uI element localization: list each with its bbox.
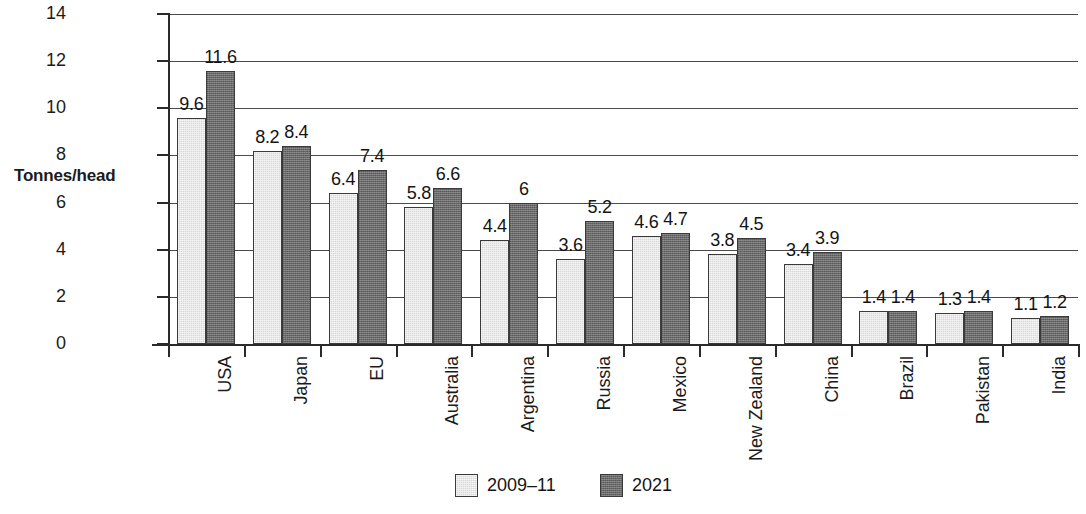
bar-value-label: 3.9 — [803, 228, 852, 249]
legend-label: 2021 — [632, 475, 672, 496]
bar-value-label: 6.6 — [423, 164, 472, 185]
gridline — [168, 108, 1078, 109]
x-tick-mark — [547, 346, 549, 357]
y-tick-label: 12 — [26, 50, 66, 71]
bar — [935, 313, 964, 344]
x-axis-category-label: Japan — [291, 356, 312, 405]
bar-value-label: 8.4 — [272, 122, 321, 143]
y-tick-mark — [157, 343, 169, 345]
y-tick-label: 14 — [26, 3, 66, 24]
x-tick-mark — [623, 346, 625, 357]
x-tick-mark — [320, 346, 322, 357]
x-tick-mark — [1002, 346, 1004, 357]
bar — [282, 146, 311, 344]
y-tick-mark — [157, 154, 169, 156]
gridline — [168, 61, 1078, 62]
bar — [859, 311, 888, 344]
bar — [433, 188, 462, 344]
y-tick-label: 2 — [26, 286, 66, 307]
bar — [813, 252, 842, 344]
x-tick-mark — [168, 346, 170, 357]
x-axis-category-label: EU — [367, 356, 388, 381]
x-tick-mark — [244, 346, 246, 357]
x-tick-mark — [851, 346, 853, 357]
legend-entry: 2021 — [600, 474, 672, 497]
y-tick-label: 8 — [26, 144, 66, 165]
x-axis-category-label: Mexico — [670, 356, 691, 412]
bar-value-label: 6.4 — [319, 169, 368, 190]
bar-value-label: 1.2 — [1030, 292, 1079, 313]
legend-swatch-icon — [455, 474, 478, 497]
legend-swatch-icon — [600, 474, 623, 497]
bar-value-label: 5.2 — [575, 197, 624, 218]
y-tick-mark — [157, 60, 169, 62]
bar-chart-figure: Tonnes/head 2009–112021 024681012149.611… — [0, 0, 1086, 514]
y-tick-mark — [157, 249, 169, 251]
bar — [708, 254, 737, 344]
y-tick-label: 0 — [26, 333, 66, 354]
x-tick-mark — [1078, 346, 1080, 357]
bar — [784, 264, 813, 344]
y-tick-label: 6 — [26, 192, 66, 213]
x-axis-category-label: Brazil — [897, 356, 918, 400]
x-axis-category-label: Russia — [594, 356, 615, 410]
bar-value-label: 4.5 — [727, 214, 776, 235]
x-axis-category-label: USA — [215, 356, 236, 393]
bar — [661, 233, 690, 344]
bar — [358, 170, 387, 344]
chart-legend: 2009–112021 — [0, 470, 1086, 500]
bar — [1040, 316, 1069, 344]
bar — [404, 207, 433, 344]
bar — [632, 236, 661, 344]
x-tick-mark — [396, 346, 398, 357]
y-axis-title: Tonnes/head — [14, 166, 115, 186]
bar-value-label: 5.8 — [394, 183, 443, 204]
x-axis-category-label: Australia — [442, 356, 463, 425]
x-tick-mark — [926, 346, 928, 357]
bar — [888, 311, 917, 344]
gridline — [168, 14, 1078, 15]
bar — [253, 151, 282, 344]
y-tick-mark — [157, 202, 169, 204]
bar — [177, 118, 206, 344]
bar — [480, 240, 509, 344]
legend-label: 2009–11 — [487, 475, 556, 496]
legend-entry: 2009–11 — [455, 474, 556, 497]
x-tick-mark — [699, 346, 701, 357]
bar-value-label: 11.6 — [196, 47, 245, 68]
x-tick-mark — [775, 346, 777, 357]
x-tick-mark — [471, 346, 473, 357]
bar-value-label: 4.4 — [470, 216, 519, 237]
y-tick-mark — [157, 296, 169, 298]
bar-value-label: 6 — [499, 179, 548, 200]
bar — [964, 311, 993, 344]
x-axis-spine — [152, 344, 1080, 346]
x-axis-category-label: Argentina — [518, 356, 539, 432]
bar — [556, 259, 585, 344]
bar-value-label: 3.6 — [546, 235, 595, 256]
y-tick-label: 4 — [26, 239, 66, 260]
y-tick-label: 10 — [26, 97, 66, 118]
bar — [329, 193, 358, 344]
bar-value-label: 1.4 — [878, 287, 927, 308]
x-axis-category-label: Pakistan — [973, 356, 994, 424]
bar-value-label: 9.6 — [167, 94, 216, 115]
bar-value-label: 7.4 — [348, 146, 397, 167]
x-axis-category-label: New Zealand — [746, 356, 767, 461]
y-tick-mark — [157, 13, 169, 15]
bar — [737, 238, 766, 344]
bar-value-label: 1.4 — [954, 287, 1003, 308]
x-axis-category-label: China — [822, 356, 843, 403]
x-axis-category-label: India — [1049, 356, 1070, 395]
bar-value-label: 4.7 — [651, 209, 700, 230]
bar — [1011, 318, 1040, 344]
